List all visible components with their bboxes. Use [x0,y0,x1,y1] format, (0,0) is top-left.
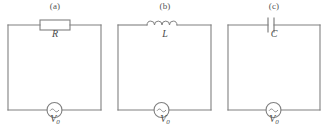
component-label-c: C [219,28,329,39]
circuit-diagram-a [0,0,110,128]
source-label-sub-b: 0 [166,118,170,126]
source-label-sub-c: 0 [275,118,279,126]
circuit-panel-b: (b) L V0 [110,0,220,128]
ac-tilde-icon-c [269,109,277,112]
source-label-a: V0 [0,113,110,128]
source-label-sub-a: 0 [56,118,60,126]
source-label-b: V0 [110,113,220,128]
circuit-diagram-c [219,0,329,128]
circuit-panel-a: (a) R [0,0,110,128]
component-label-b: L [110,28,220,39]
inductor-symbol-b [147,21,177,25]
circuit-figure: (a) R [0,0,329,128]
source-label-c: V0 [219,113,329,128]
ac-tilde-icon-a [50,109,58,112]
circuit-panel-c: (c) C V0 [219,0,329,128]
ac-tilde-icon-b [157,109,165,112]
component-label-a: R [0,28,110,39]
circuit-diagram-b [110,0,220,128]
